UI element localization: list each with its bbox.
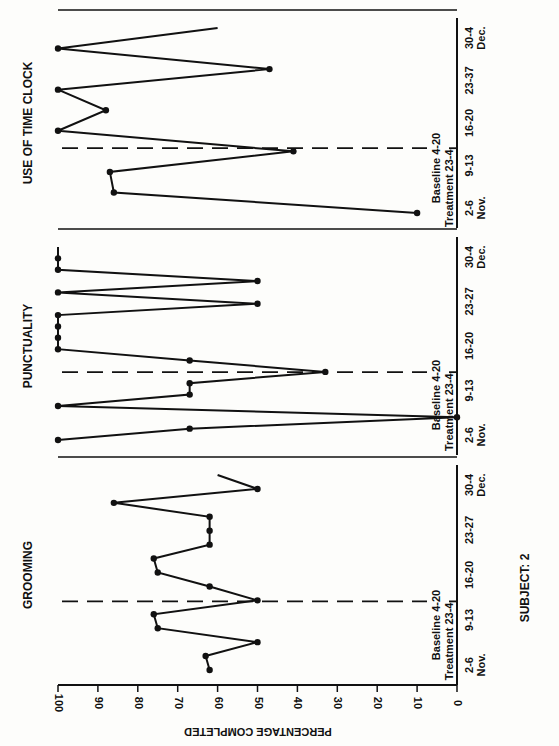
date-tick-label: Dec. [475,245,487,268]
date-tick-label: 30-4 [463,473,475,496]
date-tick-label: 9-13 [463,609,475,631]
data-point [206,514,212,520]
series-line [58,247,457,440]
treatment-label: Treatment 23-4 [443,372,455,451]
data-point [55,86,61,92]
value-axis-tick-label: 0 [452,700,464,706]
date-tick-label: 16-20 [463,332,475,360]
data-point [55,437,61,443]
value-axis-title: PERCENTAGE COMPLETED [184,726,332,738]
value-axis-tick-label: 100 [53,694,65,712]
data-point [254,639,260,645]
data-point [254,278,260,284]
data-point [111,500,117,506]
data-point [111,189,117,195]
data-point [206,541,212,547]
baseline-label: Baseline 4-20 [430,590,442,660]
data-point [186,380,192,386]
data-point [254,301,260,307]
data-point [186,357,192,363]
value-axis-tick-label: 60 [213,697,225,709]
value-axis-tick-label: 10 [412,697,424,709]
date-tick-label: 23-27 [463,287,475,315]
baseline-label: Baseline 4-20 [430,133,442,203]
date-tick-label: 9-13 [463,379,475,401]
value-axis-tick-label: 70 [173,697,185,709]
data-point [103,107,109,113]
value-axis-tick-label: 30 [332,697,344,709]
data-point [206,583,212,589]
data-point [254,597,260,603]
data-point [55,289,61,295]
plot-series [55,28,460,673]
date-tick-label: 9-13 [463,154,475,176]
data-point [155,625,161,631]
data-point [266,66,272,72]
date-tick-label: 16-20 [463,561,475,589]
data-point [55,267,61,273]
value-axis-tick-label: 80 [133,697,145,709]
data-point [206,667,212,673]
subject-label: SUBJECT: 2 [518,553,532,622]
data-point [414,210,420,216]
data-point [322,369,328,375]
date-tick-label: 23-27 [463,516,475,544]
panel-title: PUNCTUALITY [21,304,35,389]
value-axis-tick-label: 50 [253,697,265,709]
data-point [107,169,113,175]
date-tick-label: 30-4 [463,245,475,268]
panel-title: USE OF TIME CLOCK [21,61,35,184]
series-line [114,475,258,670]
data-point [290,148,296,154]
data-point [55,312,61,318]
date-tick-label: Nov. [475,423,487,446]
series-line [58,28,417,213]
data-point [151,555,157,561]
data-point [55,323,61,329]
date-tick-label: Dec. [475,26,487,49]
data-point [151,611,157,617]
data-point [55,335,61,341]
chart-frame [58,10,457,692]
data-point [55,128,61,134]
data-point [186,425,192,431]
value-axis-tick-label: 90 [93,697,105,709]
date-tick-label: 2-6 [463,657,475,673]
date-tick-label: 23-37 [463,66,475,94]
data-point [55,403,61,409]
data-point [155,569,161,575]
chart-labels: 1009080706050403020100PERCENTAGE COMPLET… [21,26,532,738]
date-tick-label: 2-6 [463,427,475,443]
figure: 1009080706050403020100PERCENTAGE COMPLET… [0,0,559,746]
date-tick-label: Nov. [475,653,487,676]
data-point [202,653,208,659]
data-point [186,391,192,397]
value-axis-tick-label: 20 [372,697,384,709]
value-axis-tick-label: 40 [292,697,304,709]
date-tick-label: 30-4 [463,26,475,49]
data-point [206,528,212,534]
treatment-label: Treatment 23-4 [443,602,455,681]
data-point [55,346,61,352]
data-point [55,45,61,51]
date-tick-label: 16-20 [463,109,475,137]
treatment-label: Treatment 23-4 [443,149,455,228]
panel-title: GROOMING [21,541,35,609]
baseline-label: Baseline 4-20 [430,360,442,430]
data-point [55,255,61,261]
date-tick-label: Dec. [475,473,487,496]
date-tick-label: 2-6 [463,200,475,216]
data-point [254,486,260,492]
date-tick-label: Nov. [475,196,487,219]
